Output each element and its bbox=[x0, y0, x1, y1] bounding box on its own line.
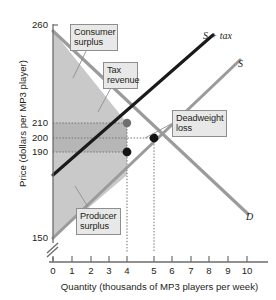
y-tick-label-150: 150 bbox=[24, 232, 48, 243]
x-tick-label-5: 5 bbox=[147, 265, 161, 276]
curve-label-supply: S bbox=[238, 58, 243, 69]
curve-label-supply-plus-tax: S + tax bbox=[203, 30, 232, 41]
callout-producer-surplus: Producer surplus bbox=[76, 208, 121, 235]
x-tick-label-8: 8 bbox=[202, 265, 216, 276]
x-tick-label-2: 2 bbox=[84, 265, 98, 276]
callout-deadweight-loss: Deadweight loss bbox=[172, 110, 227, 137]
x-tick-label-6: 6 bbox=[165, 265, 179, 276]
callout-consumer-surplus: Consumer surplus bbox=[70, 24, 118, 51]
y-axis-title: Price (dollars per MP3 player) bbox=[17, 59, 28, 189]
supply-demand-tax-figure: 260 210 200 190 150 0 1 2 3 4 5 6 7 8 9 … bbox=[0, 0, 276, 300]
curve-label-demand: D bbox=[246, 211, 253, 222]
x-axis-title: Quantity (thousands of MP3 players per w… bbox=[52, 281, 267, 292]
x-tick-marks bbox=[53, 256, 247, 262]
y-tick-label-210: 210 bbox=[24, 117, 48, 128]
y-tick-label-200: 200 bbox=[24, 132, 48, 143]
callout-tax-revenue: Tax revenue bbox=[103, 62, 138, 89]
x-tick-label-9: 9 bbox=[221, 265, 235, 276]
x-tick-label-10: 10 bbox=[240, 265, 254, 276]
seller-price-point bbox=[123, 148, 132, 157]
x-tick-label-4: 4 bbox=[120, 265, 134, 276]
y-tick-label-190: 190 bbox=[24, 146, 48, 157]
x-tick-label-0: 0 bbox=[46, 265, 60, 276]
x-tick-label-1: 1 bbox=[65, 265, 79, 276]
x-tick-label-3: 3 bbox=[102, 265, 116, 276]
x-tick-label-7: 7 bbox=[184, 265, 198, 276]
y-tick-label-260: 260 bbox=[24, 19, 48, 30]
buyer-price-point bbox=[123, 119, 131, 127]
